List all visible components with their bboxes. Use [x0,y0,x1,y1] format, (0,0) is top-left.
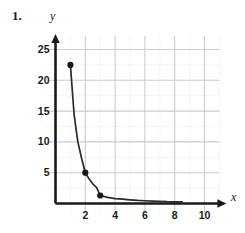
grid-minor [47,36,219,213]
y-axis-label: y [50,9,55,24]
x-tick-label: 4 [106,209,124,221]
x-tick-label: 6 [136,209,154,221]
grid-major [47,36,219,213]
data-curve [70,65,182,202]
problem-number: 1. [12,8,22,24]
y-tick-label: 5 [28,166,50,178]
graph-figure: 1. y x 510152025 246810 [0,0,245,233]
x-tick-label: 10 [196,209,214,221]
y-tick-label: 25 [28,43,50,55]
x-tick-label: 8 [166,209,184,221]
axes [51,34,226,208]
x-tick-label: 2 [76,209,94,221]
x-axis-label: x [231,190,236,205]
y-tick-label: 20 [28,74,50,86]
y-tick-label: 15 [28,105,50,117]
y-tick-label: 10 [28,135,50,147]
